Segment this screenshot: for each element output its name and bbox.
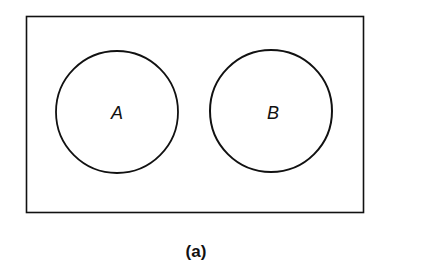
set-a-label: A <box>110 103 123 123</box>
figure-caption: (a) <box>186 242 207 261</box>
universe-rectangle <box>27 17 364 213</box>
venn-diagram: A B (a) <box>0 0 442 273</box>
set-b-label: B <box>267 103 279 123</box>
